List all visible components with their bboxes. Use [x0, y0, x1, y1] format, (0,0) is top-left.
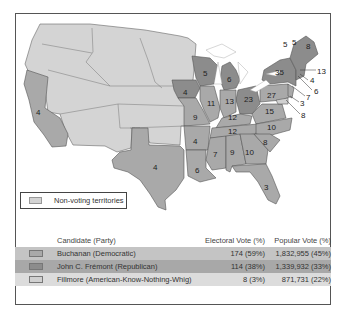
svg-text:4: 4 — [310, 76, 315, 85]
state-florida — [232, 164, 280, 204]
svg-text:8: 8 — [301, 111, 306, 120]
table-row: Buchanan (Democratic) 174 (59%) 1,832,95… — [15, 247, 331, 260]
table-row: Fillmore (American-Know-Nothing-Whig) 8 … — [15, 273, 331, 286]
svg-text:4: 4 — [153, 163, 158, 172]
table-row: John C. Frémont (Republican) 114 (38%) 1… — [15, 260, 331, 273]
svg-text:5: 5 — [283, 40, 288, 49]
svg-text:8: 8 — [263, 138, 268, 147]
svg-text:10: 10 — [245, 148, 254, 157]
svg-text:15: 15 — [265, 107, 274, 116]
svg-text:9: 9 — [230, 148, 235, 157]
results-table: Candidate (Party) Electoral Vote (%) Pop… — [15, 233, 331, 286]
svg-text:8: 8 — [306, 42, 311, 51]
popular-vote: 871,731 (22%) — [265, 275, 331, 284]
electoral-vote: 174 (59%) — [197, 249, 265, 258]
svg-text:6: 6 — [195, 166, 200, 175]
svg-text:5: 5 — [203, 69, 208, 78]
svg-text:13: 13 — [317, 67, 326, 76]
svg-text:10: 10 — [267, 123, 276, 132]
svg-text:3: 3 — [300, 99, 305, 108]
header-popular: Popular Vote (%) — [265, 236, 331, 245]
buchanan-swatch — [29, 250, 43, 257]
popular-vote: 1,339,932 (33%) — [265, 262, 331, 271]
svg-text:3: 3 — [264, 183, 269, 192]
candidate-name: Fillmore (American-Know-Nothing-Whig) — [57, 275, 197, 284]
electoral-vote: 8 (3%) — [197, 275, 265, 284]
legend-label: Non-voting territories — [54, 196, 124, 205]
header-candidate: Candidate (Party) — [57, 236, 197, 245]
svg-text:6: 6 — [314, 87, 319, 96]
popular-vote: 1,832,955 (45%) — [265, 249, 331, 258]
svg-text:4: 4 — [36, 108, 41, 117]
svg-text:23: 23 — [244, 95, 253, 104]
svg-text:6: 6 — [227, 75, 232, 84]
svg-text:7: 7 — [213, 150, 218, 159]
fillmore-swatch — [29, 276, 43, 283]
map-legend: Non-voting territories — [20, 192, 127, 209]
svg-text:9: 9 — [193, 113, 198, 122]
state-new-jersey — [288, 84, 294, 98]
fremont-swatch — [29, 263, 43, 270]
svg-text:35: 35 — [275, 68, 284, 77]
svg-text:12: 12 — [228, 127, 237, 136]
header-electoral: Electoral Vote (%) — [197, 236, 265, 245]
electoral-vote: 114 (38%) — [197, 262, 265, 271]
svg-text:11: 11 — [207, 99, 216, 108]
svg-text:12: 12 — [228, 113, 237, 122]
territory-swatch — [29, 197, 42, 204]
svg-text:5: 5 — [292, 38, 297, 47]
candidate-name: John C. Frémont (Republican) — [57, 262, 197, 271]
results-header-row: Candidate (Party) Electoral Vote (%) Pop… — [15, 233, 331, 247]
svg-text:27: 27 — [267, 91, 276, 100]
svg-text:13: 13 — [225, 97, 234, 106]
svg-text:4: 4 — [183, 88, 188, 97]
svg-text:4: 4 — [193, 137, 198, 146]
svg-text:7: 7 — [306, 93, 311, 102]
candidate-name: Buchanan (Democratic) — [57, 249, 197, 258]
